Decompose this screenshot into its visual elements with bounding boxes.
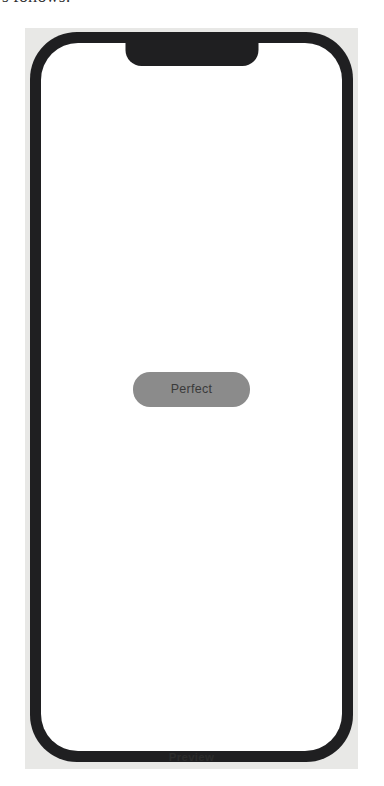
screen-content-area: Perfect	[41, 43, 342, 751]
preview-caption: Preview	[25, 751, 358, 763]
phone-screen: Perfect	[41, 43, 342, 751]
document-text-line: s follows:	[0, 0, 384, 7]
perfect-button[interactable]: Perfect	[133, 372, 250, 407]
document-text-fragment: s follows:	[0, 0, 384, 9]
phone-device-frame: Perfect	[30, 32, 353, 762]
preview-panel: Perfect Preview	[25, 28, 358, 769]
notch-icon	[125, 43, 258, 66]
